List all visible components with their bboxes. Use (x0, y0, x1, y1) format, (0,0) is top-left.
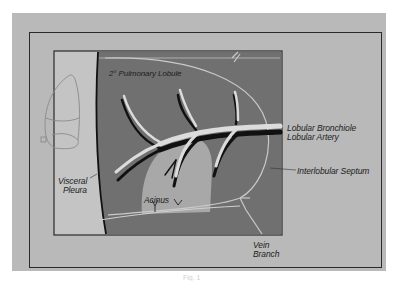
pleura-label: Pleura (63, 186, 87, 195)
lobular-artery-label: Lobular Artery (287, 133, 339, 142)
acinus-label: Acinus (144, 196, 169, 205)
figure-caption: Fig. 1 (183, 274, 201, 281)
branch-label: Branch (253, 250, 279, 259)
pulmonary-lobule-label: 2° Pulmonary Lobule (109, 69, 181, 78)
interlobular-septum-label: Interlobular Septum (297, 167, 369, 176)
